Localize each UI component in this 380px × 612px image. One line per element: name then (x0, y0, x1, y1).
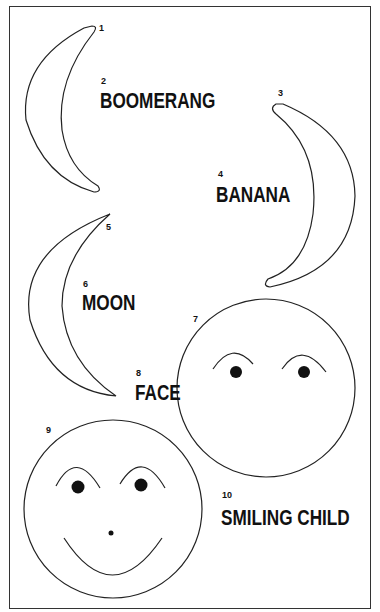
item-number-9: 9 (46, 425, 51, 435)
child-left-eye (72, 481, 85, 494)
child-right-eye (135, 479, 148, 492)
face-left-eye (230, 366, 242, 378)
item-number-10: 10 (222, 490, 232, 500)
item-number-6: 6 (83, 279, 88, 289)
face-circle (177, 299, 355, 477)
child-smile (64, 538, 162, 575)
label-moon: MOON (82, 290, 135, 316)
face-left-brow (213, 353, 253, 369)
boomerang-shape (25, 26, 99, 192)
child-nose (109, 531, 114, 536)
item-number-4: 4 (218, 169, 223, 179)
item-number-3: 3 (278, 88, 283, 98)
label-smiling-child: SMILING CHILD (221, 505, 350, 531)
face-right-eye (298, 366, 310, 378)
item-number-5: 5 (106, 222, 111, 232)
label-boomerang: BOOMERANG (100, 88, 215, 114)
label-banana: BANANA (216, 182, 290, 208)
item-number-1: 1 (99, 23, 104, 33)
child-face-circle (24, 420, 202, 598)
item-number-7: 7 (193, 314, 198, 324)
item-number-8: 8 (136, 368, 141, 378)
label-face: FACE (135, 380, 181, 406)
item-number-2: 2 (101, 76, 106, 86)
